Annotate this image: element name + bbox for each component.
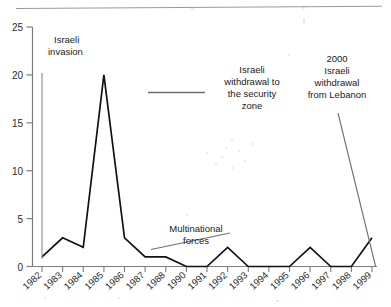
annotation-withdrawal-zone-line-2: withdrawal to	[223, 76, 279, 87]
x-axis: 1982 1983 1984 1985 1986 1987 1988 1990 …	[20, 267, 377, 292]
x-tick-label-1991: 1991	[185, 269, 208, 291]
x-tick-label-1999: 1999	[350, 269, 373, 291]
annotation-withdrawal-zone-line-4: zone	[242, 100, 263, 111]
x-tick-label-1997: 1997	[309, 269, 332, 291]
x-tick-label-1996: 1996	[288, 269, 311, 291]
x-tick-label-1988: 1988	[144, 269, 167, 291]
x-tick-label-1982: 1982	[20, 269, 43, 291]
annotation-multinational-forces-line-2: forces	[183, 235, 209, 246]
annotation-withdrawal-zone-line-3: the security	[228, 88, 277, 99]
annotation-withdrawal-zone-line-1: Israeli	[239, 64, 264, 75]
y-tick-label-25: 25	[12, 22, 24, 33]
y-tick-label-20: 20	[12, 70, 24, 81]
y-tick-label-10: 10	[12, 166, 24, 177]
annotation-withdrawal-from-lebanon-2000: 2000 Israeli withdrawal from Lebanon	[308, 53, 367, 100]
annotation-lebanon-2000-line-4: from Lebanon	[308, 89, 367, 100]
annotation-lebanon-2000-line-2: Israeli	[324, 65, 349, 76]
x-tick-label-1995: 1995	[268, 269, 291, 291]
line-chart: 25 20 15 10 5 0 1982	[0, 0, 391, 307]
y-tick-label-0: 0	[17, 262, 23, 273]
y-axis: 25 20 15 10 5 0	[12, 22, 33, 273]
annotation-israeli-withdrawal-security-zone: Israeli withdrawal to the security zone	[223, 64, 279, 111]
annotation-israeli-invasion: Israeli invasion	[48, 34, 83, 57]
annotation-multinational-forces-line-1: Multinational	[169, 223, 222, 234]
x-tick-label-1990: 1990	[165, 269, 188, 291]
y-tick-label-15: 15	[12, 118, 24, 129]
annotation-israeli-invasion-line-2: invasion	[48, 46, 83, 57]
annotation-multinational-forces: Multinational forces	[169, 223, 222, 246]
x-tick-label-1985: 1985	[82, 269, 105, 291]
x-tick-label-1984: 1984	[62, 269, 85, 291]
y-tick-label-5: 5	[17, 214, 23, 225]
annotation-israeli-invasion-line-1: Israeli	[54, 34, 79, 45]
x-tick-label-1994: 1994	[247, 269, 270, 291]
x-tick-label-1983: 1983	[41, 269, 64, 291]
x-tick-label-1986: 1986	[103, 269, 126, 291]
x-tick-label-1987: 1987	[123, 269, 146, 291]
annotation-lebanon-2000-line-3: withdrawal	[314, 77, 360, 88]
page-top-rule	[16, 6, 382, 8]
leader-withdrawal-from-lebanon-2000	[338, 113, 376, 266]
annotation-lebanon-2000-line-1: 2000	[326, 53, 347, 64]
x-tick-label-1993: 1993	[227, 269, 250, 291]
x-tick-label-1998: 1998	[330, 269, 353, 291]
chart-figure: 25 20 15 10 5 0 1982	[0, 0, 391, 307]
x-tick-label-1992: 1992	[206, 269, 229, 291]
